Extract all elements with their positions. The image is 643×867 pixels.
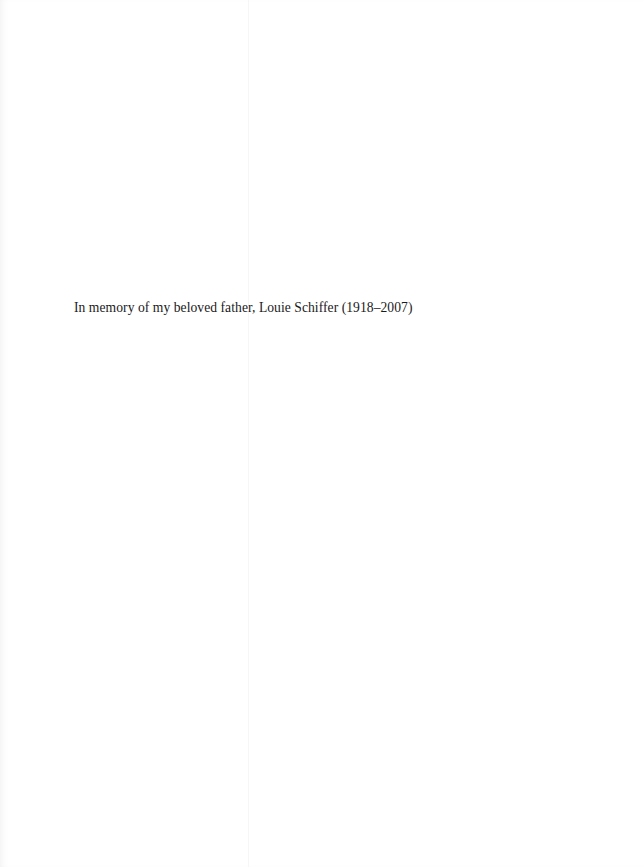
book-page: In memory of my beloved father, Louie Sc… — [0, 0, 643, 867]
dedication-text: In memory of my beloved father, Louie Sc… — [74, 300, 412, 316]
scan-gutter-line — [248, 0, 249, 867]
